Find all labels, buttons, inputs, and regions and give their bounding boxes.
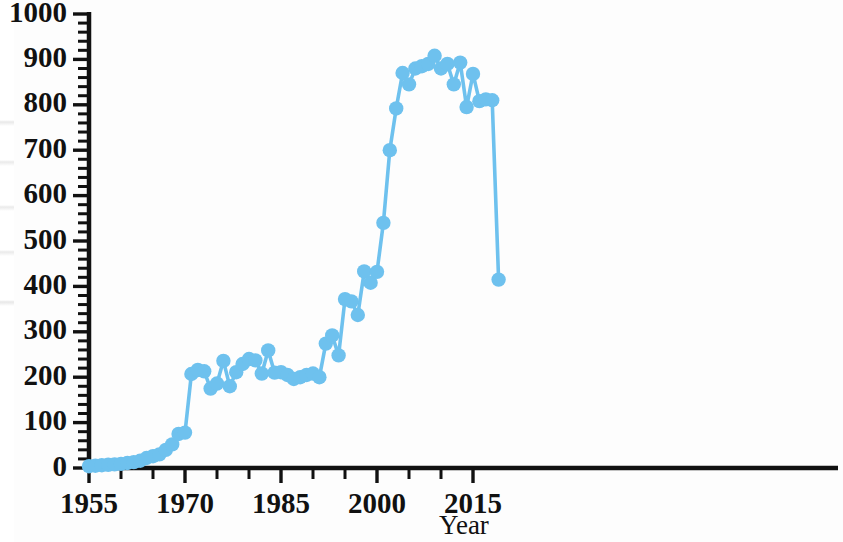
y-axis-tick-labels: 01002003004005006007008009001000 [9, 0, 67, 482]
data-point [440, 57, 454, 71]
x-tick-label: 2000 [348, 487, 406, 519]
data-point [459, 100, 473, 114]
y-tick-label: 200 [24, 359, 68, 391]
data-point [312, 370, 326, 384]
data-point [261, 343, 275, 357]
y-tick-label: 100 [24, 404, 68, 436]
series-line-publications [89, 56, 499, 466]
line-chart: 01002003004005006007008009001000 1955197… [0, 0, 843, 542]
y-tick-label: 400 [24, 268, 68, 300]
y-tick-label: 500 [24, 223, 68, 255]
y-tick-label: 600 [24, 177, 68, 209]
data-point [491, 272, 505, 286]
data-point [223, 379, 237, 393]
y-tick-label: 800 [24, 86, 68, 118]
x-tick-label: 1985 [252, 487, 310, 519]
data-point [376, 216, 390, 230]
data-point [485, 93, 499, 107]
y-tick-label: 1000 [9, 0, 67, 28]
y-tick-label: 900 [24, 41, 68, 73]
x-axis-title: Year [439, 510, 489, 540]
data-point [402, 77, 416, 91]
data-point [447, 77, 461, 91]
data-point [427, 49, 441, 63]
x-tick-label: 1970 [156, 487, 214, 519]
x-tick-label: 1955 [60, 487, 118, 519]
data-point [351, 308, 365, 322]
data-point [383, 143, 397, 157]
data-point [370, 265, 384, 279]
data-point [466, 67, 480, 81]
data-point [248, 353, 262, 367]
data-point [453, 55, 467, 69]
y-tick-label: 0 [53, 450, 68, 482]
series-markers [82, 49, 506, 474]
data-point [197, 364, 211, 378]
y-tick-label: 300 [24, 313, 68, 345]
data-point [344, 294, 358, 308]
data-point [210, 376, 224, 390]
y-axis-ticks [73, 14, 89, 468]
data-point [389, 101, 403, 115]
data-point [178, 425, 192, 439]
data-point [255, 366, 269, 380]
data-point [216, 354, 230, 368]
data-point [331, 348, 345, 362]
chart-svg: 01002003004005006007008009001000 1955197… [0, 0, 843, 542]
x-axis-tick-labels: 19551970198520002015 [60, 487, 502, 519]
data-point [325, 328, 339, 342]
y-tick-label: 700 [24, 132, 68, 164]
